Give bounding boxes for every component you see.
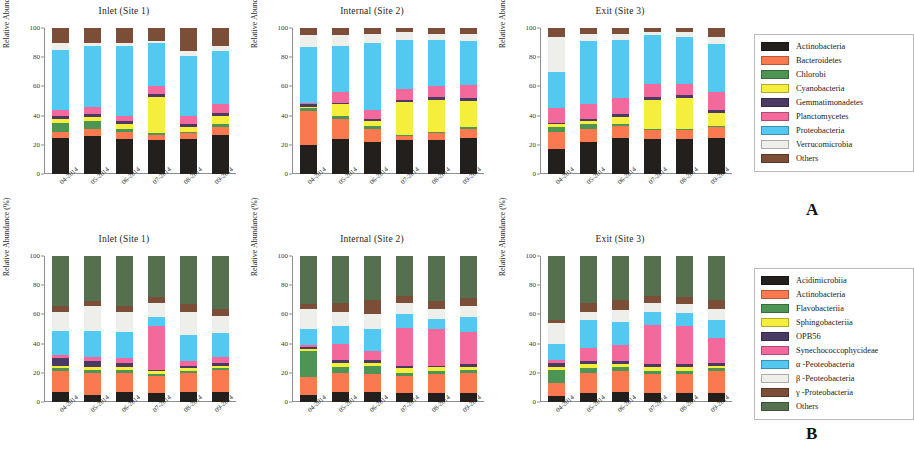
legend-label: Acidimicrobiia — [796, 276, 847, 285]
stacked-bar[interactable] — [396, 256, 413, 402]
bar-segment — [676, 98, 693, 129]
legend-label: Flavobacteriia — [796, 304, 844, 313]
stacked-bar[interactable] — [460, 256, 477, 402]
stacked-bar[interactable] — [148, 256, 165, 402]
bar-segment — [460, 41, 477, 85]
legend-label: Synechococcophycideae — [796, 346, 878, 355]
bar-group — [44, 28, 236, 174]
bar-segment — [84, 46, 101, 107]
bar-segment — [364, 329, 381, 351]
legend-item: γ -Proteobacteria — [761, 386, 906, 399]
stacked-bar[interactable] — [116, 28, 133, 174]
bar-segment — [212, 127, 229, 134]
stacked-bar[interactable] — [212, 28, 229, 174]
bar-segment — [332, 104, 349, 116]
stacked-bar[interactable] — [644, 28, 661, 174]
bar-segment — [396, 256, 413, 295]
legend-label: Others — [796, 154, 818, 163]
legend-swatch-icon — [761, 318, 789, 327]
bar-segment — [612, 40, 629, 98]
stacked-bar[interactable] — [580, 256, 597, 402]
stacked-bar[interactable] — [548, 28, 565, 174]
bar-segment — [396, 296, 413, 303]
panel-title: Internal (Site 2) — [248, 234, 496, 244]
x-tick-labels: 04-201405-201406-201407-201408-201409-20… — [44, 176, 236, 226]
stacked-bar[interactable] — [548, 256, 565, 402]
bar-segment — [332, 92, 349, 102]
bar-segment — [644, 374, 661, 393]
stacked-bar[interactable] — [364, 28, 381, 174]
stacked-bar[interactable] — [116, 256, 133, 402]
bar-segment — [612, 126, 629, 138]
legend-label: OPB56 — [796, 332, 821, 341]
stacked-bar[interactable] — [708, 256, 725, 402]
x-tick-labels: 04-201405-201406-201407-201408-201409-20… — [44, 404, 236, 454]
stacked-bar[interactable] — [212, 256, 229, 402]
stacked-bar[interactable] — [396, 28, 413, 174]
bar-segment — [548, 149, 565, 174]
stacked-bar[interactable] — [676, 28, 693, 174]
bar-segment — [148, 97, 165, 134]
bar-segment — [460, 306, 477, 318]
bar-segment — [548, 370, 565, 383]
stacked-bar[interactable] — [52, 256, 69, 402]
bar-segment — [364, 300, 381, 315]
bar-segment — [300, 145, 317, 174]
bar-segment — [644, 312, 661, 325]
legend-label: Verrucomicrobia — [796, 140, 852, 149]
legend-item: Bacteroidetes — [761, 54, 906, 67]
legend-label: Others — [796, 402, 818, 411]
stacked-bar[interactable] — [612, 28, 629, 174]
legend-label: Cyanobacteria — [796, 84, 844, 93]
stacked-bar[interactable] — [612, 256, 629, 402]
legend-label: γ -Proteobacteria — [796, 388, 853, 397]
bar-segment — [396, 102, 413, 134]
bar-segment — [612, 256, 629, 300]
chart-panel-b-internal: Internal (Site 2)Relative Abundance (%)0… — [248, 228, 496, 456]
bar-segment — [460, 298, 477, 305]
stacked-bar[interactable] — [428, 28, 445, 174]
stacked-bar[interactable] — [300, 256, 317, 402]
bar-segment — [300, 35, 317, 47]
bar-segment — [612, 117, 629, 124]
bar-segment — [612, 300, 629, 310]
bar-segment — [116, 312, 133, 332]
bar-segment — [580, 348, 597, 361]
legend-item: α -Peoteobacteria — [761, 358, 906, 371]
legend-item: OPB56 — [761, 330, 906, 343]
bar-segment — [644, 303, 661, 312]
bar-segment — [212, 51, 229, 104]
legend-item: Cyanobacteria — [761, 82, 906, 95]
bar-segment — [364, 366, 381, 375]
stacked-bar[interactable] — [364, 256, 381, 402]
stacked-bar[interactable] — [180, 256, 197, 402]
bar-segment — [52, 123, 69, 132]
stacked-bar[interactable] — [428, 256, 445, 402]
bar-segment — [364, 314, 381, 329]
stacked-bar[interactable] — [708, 28, 725, 174]
bar-segment — [300, 309, 317, 329]
stacked-bar[interactable] — [148, 28, 165, 174]
bar-segment — [52, 358, 69, 365]
bar-segment — [708, 338, 725, 363]
stacked-bar[interactable] — [580, 28, 597, 174]
bar-segment — [428, 319, 445, 329]
bar-segment — [116, 373, 133, 392]
plot-area: 020406080100 — [540, 28, 732, 174]
bar-segment — [708, 256, 725, 300]
bar-group — [292, 256, 484, 402]
stacked-bar[interactable] — [84, 256, 101, 402]
bar-segment — [460, 129, 477, 138]
stacked-bar[interactable] — [460, 28, 477, 174]
stacked-bar[interactable] — [180, 28, 197, 174]
stacked-bar[interactable] — [52, 28, 69, 174]
stacked-bar[interactable] — [332, 28, 349, 174]
stacked-bar[interactable] — [644, 256, 661, 402]
stacked-bar[interactable] — [300, 28, 317, 174]
stacked-bar[interactable] — [676, 256, 693, 402]
stacked-bar[interactable] — [332, 256, 349, 402]
stacked-bar[interactable] — [84, 28, 101, 174]
bar-segment — [676, 374, 693, 393]
bar-group — [540, 256, 732, 402]
figure-microbial-abundance: Inlet (Site 1)Relative Abundance (%)0204… — [0, 0, 914, 456]
